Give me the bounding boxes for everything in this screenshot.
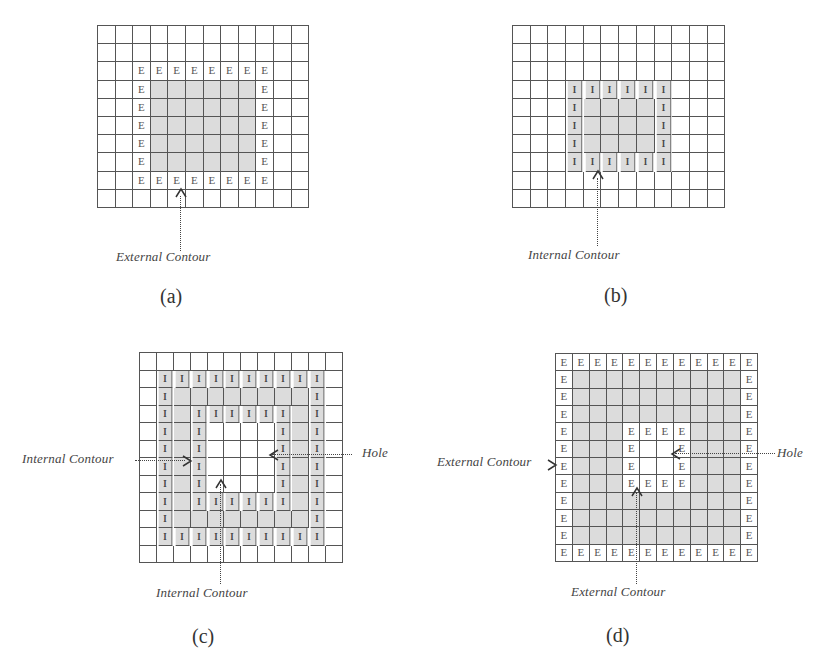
grid-cell xyxy=(274,190,292,208)
contour-pixel-E: E xyxy=(186,62,204,80)
grid-cell xyxy=(174,493,191,511)
contour-pixel-E: E xyxy=(573,354,590,371)
grid-cell xyxy=(204,44,222,62)
grid-cell xyxy=(98,62,116,80)
grid-cell xyxy=(224,546,241,564)
grid-cell xyxy=(116,26,134,44)
grid-cell xyxy=(619,117,637,135)
grid-cell xyxy=(590,527,607,544)
contour-pixel-I: I xyxy=(159,406,173,424)
grid-cell xyxy=(691,389,708,406)
grid-cell xyxy=(601,44,619,62)
contour-pixel-I: I xyxy=(656,135,670,153)
caption-internal-contour-bottom-c: Internal Contour xyxy=(156,585,248,601)
grid-cell xyxy=(637,26,655,44)
contour-pixel-E: E xyxy=(674,475,691,492)
contour-pixel-E: E xyxy=(256,172,274,190)
grid-cell xyxy=(691,371,708,388)
grid-cell xyxy=(531,117,549,135)
caption-external-contour-bottom-d: External Contour xyxy=(571,584,666,600)
contour-pixel-E: E xyxy=(674,354,691,371)
contour-pixel-I: I xyxy=(621,81,635,99)
contour-pixel-E: E xyxy=(133,172,151,190)
contour-pixel-E: E xyxy=(151,172,169,190)
grid-cell xyxy=(708,172,726,190)
grid-cell xyxy=(191,353,208,371)
contour-pixel-I: I xyxy=(159,441,173,459)
grid-cell xyxy=(140,511,157,529)
grid-cell xyxy=(584,62,602,80)
grid-cell xyxy=(623,406,640,423)
contour-pixel-I: I xyxy=(226,371,240,389)
arrow-up-icon xyxy=(592,170,604,180)
grid-cell xyxy=(239,135,257,153)
grid-cell xyxy=(292,546,309,564)
contour-pixel-I: I xyxy=(226,493,240,511)
contour-pixel-I: I xyxy=(656,99,670,117)
grid-cell xyxy=(724,406,741,423)
grid-cell xyxy=(548,62,566,80)
contour-pixel-E: E xyxy=(256,153,274,171)
grid-cell xyxy=(239,81,257,99)
grid-cell xyxy=(640,406,657,423)
contour-pixel-I: I xyxy=(311,458,325,476)
arrow-up-icon xyxy=(631,487,643,497)
contour-pixel-I: I xyxy=(159,493,173,511)
grid-cell xyxy=(566,26,584,44)
arrow-line-right-c xyxy=(272,454,352,455)
caption-internal-contour-b: Internal Contour xyxy=(528,247,620,263)
grid-cell xyxy=(326,476,343,494)
grid-cell xyxy=(116,44,134,62)
grid-cell xyxy=(221,135,239,153)
contour-pixel-E: E xyxy=(133,62,151,80)
contour-pixel-I: I xyxy=(175,528,189,546)
grid-cell xyxy=(513,172,531,190)
grid-cell xyxy=(690,62,708,80)
grid-cell xyxy=(116,62,134,80)
contour-pixel-E: E xyxy=(556,389,573,406)
grid-cell xyxy=(708,475,725,492)
grid-cell xyxy=(607,510,624,527)
subcaption-b: (b) xyxy=(604,284,627,307)
arrow-line-b xyxy=(597,178,598,246)
grid-cell xyxy=(708,44,726,62)
grid-cell xyxy=(204,117,222,135)
grid-cell xyxy=(672,99,690,117)
grid-cell xyxy=(573,406,590,423)
grid-cell xyxy=(691,493,708,510)
grid-cell xyxy=(326,441,343,459)
grid-cell xyxy=(566,172,584,190)
grid-cell xyxy=(168,99,186,117)
grid-cell xyxy=(674,406,691,423)
grid-cell xyxy=(691,527,708,544)
caption-external-contour-a: External Contour xyxy=(116,249,211,265)
contour-pixel-I: I xyxy=(243,493,257,511)
contour-pixel-I: I xyxy=(277,423,291,441)
grid-cell xyxy=(275,388,292,406)
arrow-line-bottom-d xyxy=(636,492,637,584)
grid-cell xyxy=(98,153,116,171)
grid-cell xyxy=(239,44,257,62)
grid-cell xyxy=(657,458,674,475)
grid-cell xyxy=(221,117,239,135)
contour-pixel-I: I xyxy=(568,135,582,153)
contour-pixel-I: I xyxy=(277,493,291,511)
grid-cell xyxy=(292,172,310,190)
contour-pixel-I: I xyxy=(277,406,291,424)
grid-cell xyxy=(619,44,637,62)
contour-pixel-E: E xyxy=(221,172,239,190)
grid-cell xyxy=(168,44,186,62)
caption-internal-contour-left-c: Internal Contour xyxy=(22,451,114,467)
grid-cell xyxy=(208,353,225,371)
contour-pixel-E: E xyxy=(724,354,741,371)
grid-cell xyxy=(186,135,204,153)
grid-cell xyxy=(174,476,191,494)
grid-cell xyxy=(657,510,674,527)
contour-pixel-I: I xyxy=(656,117,670,135)
contour-pixel-E: E xyxy=(657,545,674,562)
grid-cell xyxy=(168,135,186,153)
grid-cell xyxy=(292,423,309,441)
grid-cell xyxy=(116,117,134,135)
grid-cell xyxy=(98,135,116,153)
grid-cell xyxy=(623,527,640,544)
